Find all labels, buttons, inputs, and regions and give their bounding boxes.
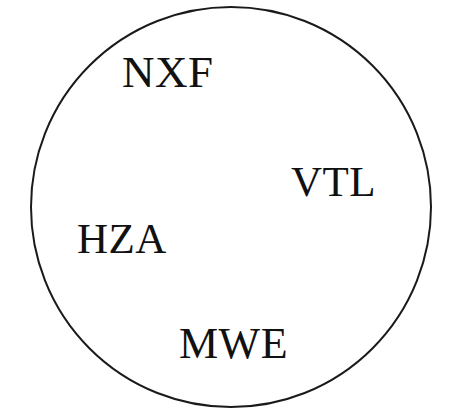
label-nxf: NXF: [122, 50, 214, 95]
label-hza: HZA: [77, 217, 167, 260]
diagram-canvas: NXF VTL HZA MWE: [0, 0, 449, 409]
label-vtl: VTL: [291, 160, 376, 203]
label-mwe: MWE: [179, 322, 288, 366]
